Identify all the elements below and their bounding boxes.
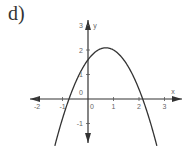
y-axis-down-arrow-icon — [85, 133, 91, 143]
x-tick-label: 0 — [90, 103, 94, 110]
x-tick-label: 3 — [163, 103, 167, 110]
y-tick-label: 3 — [79, 22, 83, 29]
origin-label: 0 — [79, 89, 83, 96]
x-axis-right-arrow-icon — [172, 96, 182, 102]
x-axis-label: x — [171, 88, 175, 95]
x-axis-left-arrow-icon — [30, 96, 40, 102]
y-tick-label: 2 — [79, 47, 83, 54]
parabola-curve — [55, 48, 157, 146]
y-axis-label: y — [93, 22, 97, 30]
axes — [30, 20, 182, 143]
y-tick-label: 1 — [79, 71, 83, 78]
parabola-path — [55, 48, 157, 146]
x-tick-label: 2 — [137, 103, 141, 110]
x-tick-label: -2 — [34, 103, 40, 110]
parabola-plot: -2-10123321-10xy — [0, 0, 191, 155]
x-tick-label: -1 — [59, 103, 65, 110]
y-tick-label: -1 — [77, 120, 83, 127]
tick-labels: -2-10123321-10xy — [34, 22, 175, 127]
x-tick-label: 1 — [112, 103, 116, 110]
y-axis-up-arrow-icon — [85, 20, 91, 30]
